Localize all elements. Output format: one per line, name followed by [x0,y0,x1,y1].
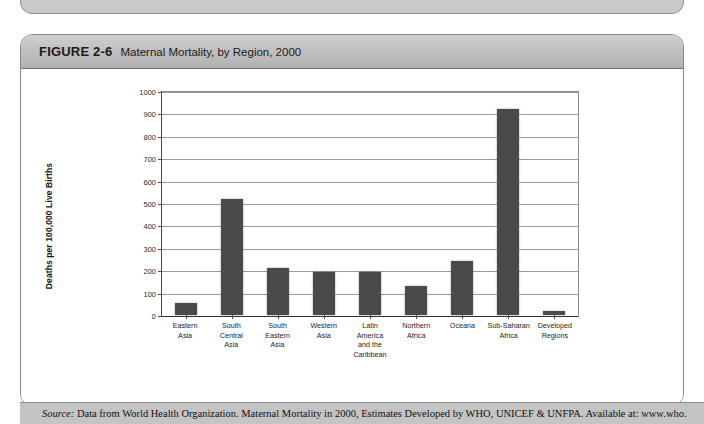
y-axis-tick-mark [158,159,162,160]
y-axis-tick-mark [158,249,162,250]
y-axis-tick-mark [158,114,162,115]
y-axis-tick-label: 300 [143,244,156,253]
x-axis-tick-mark [370,315,371,319]
bar-series [163,92,577,315]
bar [175,303,197,315]
x-axis-tick-mark [186,315,187,319]
bar [267,268,289,315]
y-axis-tick-label: 100 [143,289,156,298]
x-axis-tick-mark [462,315,463,319]
bar-slot [531,92,577,315]
y-axis-tick-label: 200 [143,267,156,276]
bar [313,272,335,315]
bar-slot [255,92,301,315]
x-axis-category-label: LatinAmericaand theCaribbean [347,321,393,359]
y-axis-tick-label: 1000 [139,88,156,97]
figure-header: FIGURE 2-6 Maternal Mortality, by Region… [21,35,683,69]
bar [359,272,381,315]
bar [451,261,473,315]
x-axis-tick-mark [508,315,509,319]
y-axis-tick-label: 0 [152,312,156,321]
plot-wrap: 10009008007006005004003002001000 [161,91,579,317]
source-body: Data from World Health Organization. Mat… [74,408,686,419]
chart-body: Deaths per 100,000 Live Births 100090080… [21,69,683,405]
y-axis-tick-mark [158,271,162,272]
source-label: Source: [42,408,74,419]
y-axis-tick-mark [158,137,162,138]
bar-slot [209,92,255,315]
x-axis-category-label: Oceana [439,321,485,359]
bar-slot [393,92,439,315]
y-axis-tick-label: 400 [143,222,156,231]
x-axis-tick-mark [416,315,417,319]
x-axis-tick-mark [232,315,233,319]
y-axis-tick-mark [158,204,162,205]
bar-slot [485,92,531,315]
x-axis-tick-mark [324,315,325,319]
x-axis-category-label: Sub-SaharanAfrica [486,321,532,359]
y-axis-tick-mark [158,92,162,93]
bar [405,286,427,315]
bar [497,109,519,315]
y-axis-tick-label: 800 [143,132,156,141]
y-axis-tick-mark [158,182,162,183]
source-strip: Source: Data from World Health Organizat… [20,402,704,424]
y-axis-tick-mark [158,226,162,227]
bar [221,199,243,315]
figure-number: FIGURE 2-6 [39,44,113,59]
previous-figure-box-partial [20,0,684,14]
bar-slot [301,92,347,315]
y-axis-tick-label: 600 [143,177,156,186]
source-note: Source: Data from World Health Organizat… [42,408,687,419]
page-root: FIGURE 2-6 Maternal Mortality, by Region… [0,0,704,424]
bar-slot [347,92,393,315]
x-axis-category-label: NorthernAfrica [393,321,439,359]
bar-slot [163,92,209,315]
figure-title: Maternal Mortality, by Region, 2000 [121,46,302,58]
x-axis-category-label: SouthCentralAsia [208,321,254,359]
plot-area: 10009008007006005004003002001000 [161,91,579,317]
figure-card: FIGURE 2-6 Maternal Mortality, by Region… [20,34,684,406]
x-axis-tick-mark [278,315,279,319]
y-axis-tick-label: 900 [143,110,156,119]
x-axis-category-label: WesternAsia [301,321,347,359]
bar-slot [439,92,485,315]
y-axis-title: Deaths per 100,000 Live Births [44,146,54,306]
x-axis-tick-labels: EasternAsiaSouthCentralAsiaSouthEasternA… [162,321,578,359]
y-axis-tick-mark [158,294,162,295]
x-axis-tick-mark [554,315,555,319]
x-axis-category-label: EasternAsia [162,321,208,359]
x-axis-category-label: SouthEasternAsia [254,321,300,359]
y-axis-tick-label: 500 [143,200,156,209]
y-axis-tick-mark [158,316,162,317]
x-axis-category-label: DevelopedRegions [532,321,578,359]
y-axis-tick-label: 700 [143,155,156,164]
